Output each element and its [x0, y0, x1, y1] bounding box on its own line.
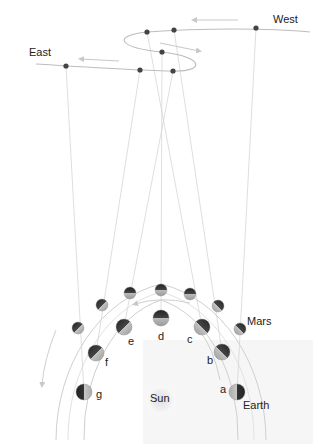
sky-arrows	[81, 20, 238, 61]
position-label-g: g	[96, 389, 102, 400]
position-label-d: d	[158, 331, 164, 342]
diagram-canvas	[0, 0, 313, 444]
position-label-c: c	[187, 334, 193, 345]
position-label-b: b	[207, 355, 213, 366]
position-label-a: a	[220, 384, 226, 395]
position-label-f: f	[105, 357, 108, 368]
mars-sky-path	[36, 29, 310, 71]
retrograde-diagram: West East Mars Earth Sun a b c d e f g	[0, 0, 313, 444]
position-label-e: e	[128, 336, 134, 347]
sun-label: Sun	[150, 393, 170, 404]
west-label: West	[273, 14, 298, 25]
mars-label: Mars	[247, 316, 271, 327]
mars-positions	[72, 284, 246, 335]
east-label: East	[29, 47, 51, 58]
earth-label: Earth	[243, 400, 269, 411]
sky-dots	[63, 25, 258, 73]
